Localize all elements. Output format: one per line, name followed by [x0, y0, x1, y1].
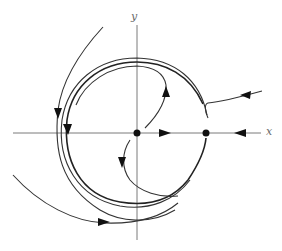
arrow-down-outer-left: [54, 108, 62, 119]
arrow-up-inner: [162, 86, 170, 97]
arrow-right-bottom: [98, 218, 110, 226]
arrow-down-inner-lower: [118, 157, 126, 168]
arrow-left-x-axis: [234, 129, 246, 137]
fixed-point-origin: [134, 130, 141, 137]
trajectory-right-incoming: [205, 91, 262, 118]
trajectory-outer-top-left: [57, 27, 175, 220]
phase-portrait-canvas: [0, 0, 282, 251]
trajectory-inner-lower: [124, 140, 178, 196]
arrow-right-x-axis: [159, 129, 171, 137]
y-axis-label: y: [131, 11, 137, 22]
trajectory-inner-upper: [76, 66, 166, 128]
arrow-left-right-incoming: [240, 91, 251, 99]
trajectory-bottom-left: [13, 175, 178, 223]
phase-portrait-diagram: y x: [0, 0, 282, 251]
fixed-point-right: [203, 130, 210, 137]
x-axis-label: x: [266, 126, 272, 137]
